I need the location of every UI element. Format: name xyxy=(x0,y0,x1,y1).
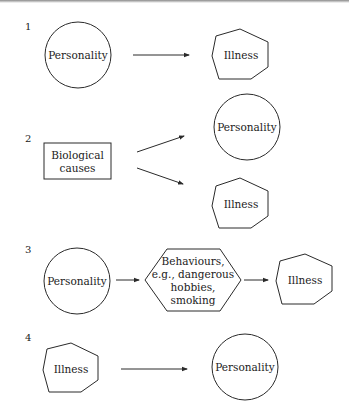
diagram-canvas: 1 Personality Illness 2 Biological cause… xyxy=(0,0,349,414)
illness-node: Illness xyxy=(276,254,332,304)
node-label-line-4: smoking xyxy=(171,294,216,306)
node-label: Illness xyxy=(224,49,259,61)
panel-3: 3 Personality Behaviours, e.g., dangerou… xyxy=(25,244,332,314)
panel-number: 2 xyxy=(25,133,31,144)
node-label: Personality xyxy=(47,275,106,287)
panel-1: 1 Personality Illness xyxy=(25,21,268,88)
arrow-bio-to-personality xyxy=(137,136,184,152)
personality-node: Personality xyxy=(212,334,278,400)
node-label-line-3: hobbies, xyxy=(171,281,216,293)
biological-causes-node: Biological causes xyxy=(44,143,111,179)
illness-node: Illness xyxy=(212,178,268,228)
node-label: Illness xyxy=(54,363,89,375)
node-label-line-2: e.g., dangerous xyxy=(152,268,234,280)
panel-2: 2 Biological causes Personality Illness xyxy=(25,94,280,228)
node-label: Personality xyxy=(215,361,274,373)
node-label: Personality xyxy=(48,49,107,61)
illness-node: Illness xyxy=(212,29,268,79)
personality-node: Personality xyxy=(214,94,280,160)
illness-node: Illness xyxy=(43,343,98,392)
node-label: Personality xyxy=(217,121,276,133)
node-label: Illness xyxy=(288,274,323,286)
panel-number: 4 xyxy=(25,332,31,343)
node-label: Illness xyxy=(224,198,259,210)
arrow-bio-to-illness xyxy=(137,168,183,184)
node-label-line-1: Behaviours, xyxy=(161,255,224,267)
panel-4: 4 Illness Personality xyxy=(25,332,278,400)
node-label-line-1: Biological xyxy=(51,149,104,161)
panel-number: 1 xyxy=(25,21,31,32)
behaviours-node: Behaviours, e.g., dangerous hobbies, smo… xyxy=(145,249,241,311)
panel-number: 3 xyxy=(25,244,31,255)
personality-node: Personality xyxy=(44,248,110,314)
personality-node: Personality xyxy=(45,22,111,88)
node-label-line-2: causes xyxy=(60,162,96,174)
